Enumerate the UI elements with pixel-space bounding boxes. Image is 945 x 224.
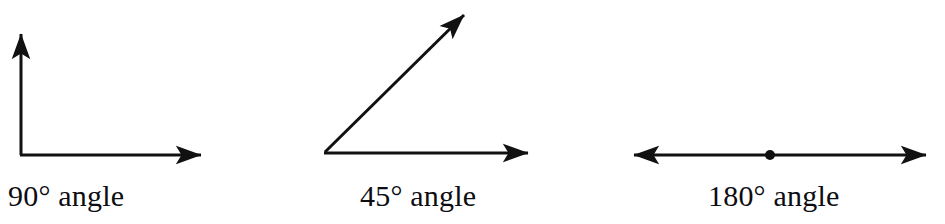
caption-straight-angle: 180° angle <box>708 181 839 211</box>
figure-right-angle: 90° angle <box>0 0 300 224</box>
angle-diagram-sheet: 90° angle 45° angle <box>0 0 945 224</box>
caption-right-angle: 90° angle <box>8 181 124 211</box>
caption-acute-angle: 45° angle <box>360 181 476 211</box>
vertex-dot <box>765 150 775 160</box>
figure-straight-angle: 180° angle <box>620 0 945 224</box>
figure-acute-angle: 45° angle <box>300 0 620 224</box>
diagonal-ray <box>325 15 464 152</box>
